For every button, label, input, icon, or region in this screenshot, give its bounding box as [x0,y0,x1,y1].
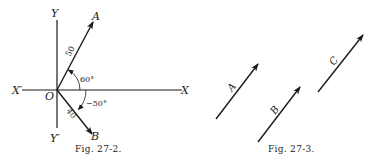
axis-label-x-neg: X′ [11,84,23,97]
vector-c [318,35,363,92]
figure-caption: Fig. 27-2. [75,144,122,154]
axis-label-x: X [180,84,190,97]
figure-27-2: Y Y′ X X′ O A B 50 40 60° −50° Fig. 27-2… [11,7,190,154]
vector-b-label: B [90,130,99,143]
axis-label-y: Y [51,7,60,20]
vector-a [216,64,258,119]
vector-b-magnitude: 40 [64,107,77,121]
angle-label-60: 60° [80,75,94,84]
figures-canvas: Y Y′ X X′ O A B 50 40 60° −50° Fig. 27-2… [0,0,374,163]
figure-27-3: A B C Fig. 27-3. [216,35,363,154]
origin-label: O [45,90,54,103]
vector-b [258,87,300,142]
figure-caption: Fig. 27-3. [268,144,315,154]
angle-arc-neg50 [79,90,87,110]
angle-label-neg50: −50° [86,99,107,108]
axis-label-y-neg: Y′ [50,132,60,145]
angle-arc-60 [69,70,81,90]
vector-a-label: A [91,10,100,23]
